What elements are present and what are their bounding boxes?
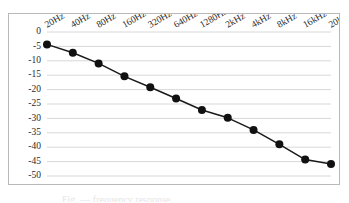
chart-plot-frame: 0-5-10-15-20-25-30-35-40-45-50 20Hz40Hz8… — [8, 13, 340, 185]
figure-container: 0-5-10-15-20-25-30-35-40-45-50 20Hz40Hz8… — [0, 0, 349, 203]
y-axis-tick-label: -45 — [28, 156, 41, 166]
y-axis-tick-label: -50 — [28, 170, 41, 180]
x-axis-tick-label: 80Hz — [95, 14, 118, 30]
x-axis-tick-labels: 20Hz40Hz80Hz160Hz320Hz640Hz1280Hz2kHz4kH… — [43, 14, 339, 30]
y-axis-tick-label: -30 — [28, 113, 41, 123]
line-chart: 0-5-10-15-20-25-30-35-40-45-50 20Hz40Hz8… — [9, 14, 339, 184]
series-data-point — [198, 106, 206, 114]
x-axis-tick-label: 160Hz — [120, 14, 147, 30]
series-data-point — [146, 83, 154, 91]
x-axis-tick-label: 2kHz — [224, 14, 247, 30]
series-data-point — [301, 156, 309, 164]
x-axis-tick-label: 8kHz — [275, 14, 298, 30]
x-axis-tick-label: 16kHz — [301, 14, 328, 30]
figure-caption: Fig. — frequency response — [62, 194, 170, 202]
series-data-point — [69, 49, 77, 57]
y-axis-tick-label: -5 — [33, 41, 41, 51]
series-data-point — [43, 40, 51, 48]
y-axis-tick-label: -25 — [28, 98, 41, 108]
series-data-point — [224, 114, 232, 122]
series-data-point — [275, 140, 283, 148]
y-axis-tick-label: -10 — [28, 55, 41, 65]
series-data-point — [327, 160, 335, 168]
figure-caption-strip: Fig. — frequency response — [62, 189, 288, 202]
y-axis-tick-labels: 0-5-10-15-20-25-30-35-40-45-50 — [28, 26, 41, 180]
series-data-point — [250, 126, 258, 134]
y-axis-tick-label: -20 — [28, 84, 41, 94]
y-axis-tick-label: -40 — [28, 141, 41, 151]
y-axis-tick-label: -35 — [28, 127, 41, 137]
x-axis-tick-label: 20kHz — [327, 14, 339, 30]
x-axis-tick-label: 20Hz — [43, 14, 66, 30]
x-axis-tick-label: 320Hz — [146, 14, 173, 30]
y-axis-tick-label: 0 — [36, 26, 41, 36]
series-data-point — [172, 95, 180, 103]
x-axis-tick-label: 40Hz — [69, 14, 92, 30]
series-data-point — [95, 59, 103, 67]
y-axis-tick-label: -15 — [28, 69, 41, 79]
x-axis-tick-label: 640Hz — [172, 14, 199, 30]
x-axis-tick-label: 4kHz — [250, 14, 273, 30]
series-data-point — [120, 72, 128, 80]
